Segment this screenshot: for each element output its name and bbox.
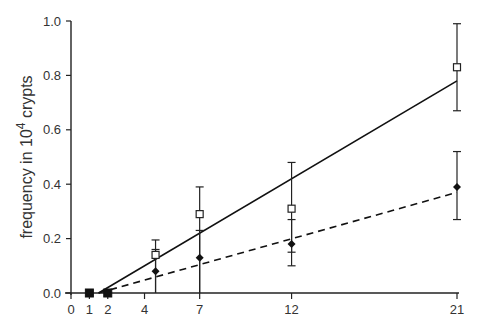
y-tick-label: 0.2: [43, 231, 61, 246]
data-point-square: [196, 211, 203, 218]
data-point-square: [152, 251, 159, 258]
y-tick-label: 0.8: [43, 68, 61, 83]
data-point-diamond: [453, 183, 461, 191]
y-tick-label: 0.0: [43, 286, 61, 301]
data-point-diamond: [152, 267, 160, 275]
y-axis-label: frequency in 104 crypts: [14, 75, 35, 238]
x-tick-label: 0: [67, 302, 74, 317]
x-tick-label: 12: [284, 302, 298, 317]
data-point-square: [288, 205, 295, 212]
y-tick-label: 0.4: [43, 177, 61, 192]
dashed-fit-line: [99, 192, 457, 293]
x-tick-label: 2: [104, 302, 111, 317]
y-tick-label: 1.0: [43, 14, 61, 29]
chart: 0.00.20.40.60.81.0012471221frequency in …: [0, 0, 479, 334]
x-tick-label: 21: [450, 302, 464, 317]
solid-fit-line: [99, 81, 457, 293]
x-tick-label: 7: [196, 302, 203, 317]
x-tick-label: 4: [141, 302, 148, 317]
data-point-square: [454, 64, 461, 71]
plot-area: 0.00.20.40.60.81.0012471221frequency in …: [0, 0, 479, 334]
data-point-diamond: [196, 254, 204, 262]
y-tick-label: 0.6: [43, 122, 61, 137]
data-point-diamond: [288, 240, 296, 248]
x-tick-label: 1: [86, 302, 93, 317]
